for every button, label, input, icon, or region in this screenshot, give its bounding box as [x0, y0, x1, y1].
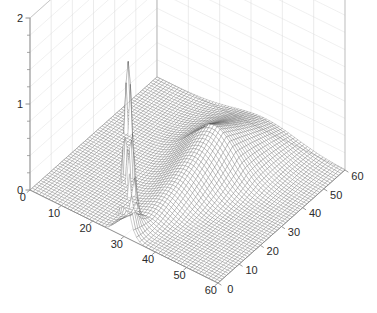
x-tick-label-10: 10 — [48, 207, 60, 219]
x-tick-label-50: 50 — [173, 269, 185, 281]
y-tick-label-0: 0 — [227, 283, 233, 295]
y-tick-label-60: 60 — [351, 170, 363, 182]
y-tick-label-30: 30 — [288, 226, 300, 238]
surface-plot-3d: 01201020304050600102030405060 — [0, 0, 377, 313]
x-tick-label-30: 30 — [111, 238, 123, 250]
y-tick-label-50: 50 — [330, 189, 342, 201]
z-tick-label-2: 2 — [17, 12, 23, 24]
y-tick-label-10: 10 — [245, 264, 257, 276]
figure-canvas: 01201020304050600102030405060 — [0, 0, 377, 313]
y-tick-label-20: 20 — [267, 245, 279, 257]
x-tick-label-20: 20 — [79, 222, 91, 234]
x-tick-label-0: 0 — [20, 191, 26, 203]
x-tick-label-60: 60 — [205, 284, 217, 296]
z-tick-label-1: 1 — [17, 98, 23, 110]
x-tick-label-40: 40 — [142, 253, 154, 265]
y-tick-label-40: 40 — [309, 207, 321, 219]
